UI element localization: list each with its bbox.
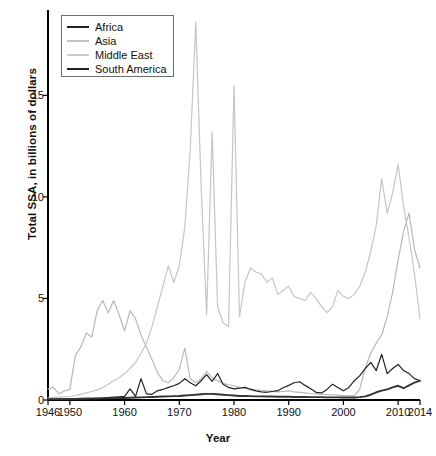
x-tick-label: 1980 [222,406,246,418]
legend-label-middle-east: Middle East [95,48,152,62]
legend-swatch-asia [67,40,89,42]
legend-swatch-south-america [67,68,89,70]
x-tick-label: 1950 [58,406,82,418]
legend-label-south-america: South America [95,62,167,76]
legend-swatch-middle-east [67,54,89,56]
x-tick-label: 2010 [386,406,410,418]
x-tick-label: 1970 [167,406,191,418]
legend-swatch-africa [67,26,89,28]
legend-item-africa: Africa [67,20,168,34]
series-line-south-america [48,381,420,399]
x-tick-label: 1990 [276,406,300,418]
legend-label-asia: Asia [95,34,116,48]
legend-item-middle-east: Middle East [67,48,168,62]
series-line-asia [48,213,420,396]
legend-item-south-america: South America [67,62,168,76]
chart-legend: Africa Asia Middle East South America [61,15,174,77]
chart-figure: 051015 Total SSA, in billions of dollars… [0,0,436,456]
x-tick-label: 1946 [36,406,60,418]
legend-label-africa: Africa [95,20,123,34]
series-line-africa [48,354,420,399]
x-tick-label: 2000 [331,406,355,418]
legend-item-asia: Asia [67,34,168,48]
series-line-middle-east [48,22,420,398]
x-tick-label: 2014 [408,406,432,418]
x-tick-label: 1960 [112,406,136,418]
